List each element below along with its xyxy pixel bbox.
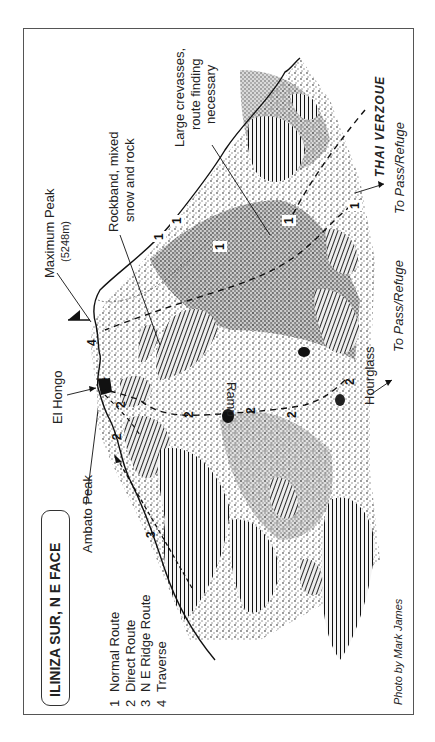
label-ramp: Ramp bbox=[224, 382, 238, 417]
label-el-hongo: El Hongo bbox=[51, 371, 65, 424]
route-1-marker: 1 bbox=[282, 215, 296, 226]
route-4-marker: 4 bbox=[85, 339, 99, 346]
route-1-marker: 1 bbox=[348, 200, 362, 211]
route-2-marker: 2 bbox=[343, 378, 357, 385]
route-1-marker: 1 bbox=[213, 241, 227, 252]
route-2-marker: 2 bbox=[244, 407, 258, 414]
legend-label-2: Direct Route bbox=[124, 620, 138, 692]
legend-label-4: Traverse bbox=[155, 641, 169, 692]
label-maximum-peak: Maximum Peak bbox=[43, 188, 57, 278]
label-crevasses-line1: Large crevasses, bbox=[173, 48, 187, 147]
legend-label-1: Normal Route bbox=[108, 612, 122, 692]
handwritten-annotation: THAI VERZOUE bbox=[373, 76, 387, 177]
summit-flag-icon bbox=[68, 310, 90, 320]
label-maximum-peak-elevation: (5248m) bbox=[59, 221, 71, 262]
route-4-marker: 4 bbox=[96, 377, 110, 384]
label-ambato-peak: Ambato Peak bbox=[81, 475, 95, 553]
label-rockband-line2: snow and rock bbox=[123, 138, 137, 222]
label-crevasses-line2: route finding bbox=[189, 58, 203, 130]
legend-num-1: 1 bbox=[108, 700, 122, 707]
route-2-marker: 2 bbox=[285, 411, 299, 418]
diagram-title: ILINIZA SUR, N E FACE bbox=[48, 543, 62, 697]
route-1-marker: 1 bbox=[170, 215, 184, 226]
label-hourglass: Hourglass bbox=[363, 346, 377, 405]
route-3-marker: 3 bbox=[144, 531, 158, 538]
legend-num-2: 2 bbox=[124, 700, 138, 707]
route-2-marker: 2 bbox=[182, 411, 196, 418]
label-to-pass-refuge-upper: To Pass/Refuge bbox=[393, 122, 407, 214]
photo-credit: Photo by Mark James bbox=[392, 599, 404, 705]
route-2-marker: 2 bbox=[110, 433, 124, 440]
route-diagram: ILINIZA SUR, N E FACE 1 Normal Route 2 D… bbox=[0, 0, 435, 742]
route-1-marker: 1 bbox=[152, 231, 166, 242]
label-crevasses-line3: necessary bbox=[204, 65, 218, 124]
label-to-pass-refuge-lower: To Pass/Refuge bbox=[392, 260, 406, 352]
legend-label-3: N E Ridge Route bbox=[139, 594, 153, 692]
route-2-marker: 2 bbox=[114, 401, 128, 408]
label-rockband-line1: Rockband, mixed bbox=[107, 132, 121, 232]
legend-num-4: 4 bbox=[155, 700, 169, 707]
legend-num-3: 3 bbox=[139, 700, 153, 707]
